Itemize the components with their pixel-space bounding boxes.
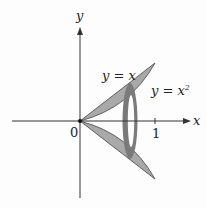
lower-region (80, 121, 155, 179)
solid-of-revolution-diagram: y x 0 1 y = x y = x2 (0, 0, 207, 208)
x-axis-arrow-icon (183, 118, 191, 124)
upper-curve-label: y = x (102, 69, 136, 82)
x-axis-label: x (193, 114, 200, 127)
lower-curve-label-base: y = x (151, 83, 185, 98)
origin-point (78, 119, 82, 123)
origin-label: 0 (70, 126, 78, 139)
lower-curve-label-exponent: 2 (185, 83, 190, 92)
x-tick-label: 1 (152, 127, 160, 140)
y-axis-arrow-icon (77, 27, 83, 35)
y-axis-label: y (76, 9, 83, 22)
diagram-graphics (0, 0, 207, 208)
lower-curve-label: y = x2 (151, 84, 190, 97)
